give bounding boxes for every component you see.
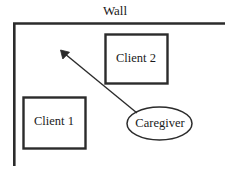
client2-label: Client 2 [105, 52, 167, 65]
wall-label: Wall [0, 4, 230, 17]
diagram-canvas: Wall Client 2 Client 1 Caregiver [0, 0, 230, 171]
diagram-vector-layer [0, 0, 230, 171]
client1-label: Client 1 [23, 115, 85, 128]
gaze-arrow-head [61, 50, 70, 59]
caregiver-label: Caregiver [127, 117, 193, 130]
